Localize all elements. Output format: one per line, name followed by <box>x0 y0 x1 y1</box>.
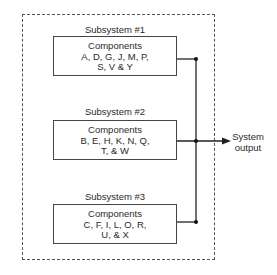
junction-dot-3 <box>194 220 198 224</box>
junction-dot-2 <box>194 139 198 143</box>
output-label-line2: output <box>232 143 264 154</box>
junction-dot-1 <box>194 57 198 61</box>
output-label-line1: System <box>232 132 264 143</box>
arrow-head-icon <box>222 138 231 145</box>
system-output-label: System output <box>232 132 264 153</box>
